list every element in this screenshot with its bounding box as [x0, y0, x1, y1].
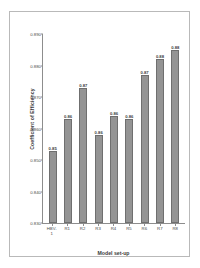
figure-frame: Coefficient of Efficiency 0.8900.8800.87… [9, 11, 190, 257]
x-tick-mark [175, 224, 176, 226]
x-label-cell: R7 [152, 226, 167, 237]
bar[interactable]: 0.88 [171, 50, 179, 223]
x-tick-label: R4 [106, 226, 121, 231]
x-tick-mark [98, 224, 99, 226]
x-tick-mark [67, 224, 68, 226]
x-tick-mark [129, 224, 130, 226]
bar-value-label: 0.86 [64, 114, 72, 119]
bar-cell: 0.86 [106, 34, 121, 223]
plot-area: 0.8900.8800.8700.8600.8500.8400.830 0.85… [42, 34, 185, 224]
x-tick-label: R5 [121, 226, 136, 231]
x-label-cell: HBV-1 [44, 226, 59, 237]
bar[interactable]: 0.86 [110, 116, 118, 223]
bar-value-label: 0.87 [141, 70, 149, 75]
x-label-cell: R3 [90, 226, 105, 237]
x-label-cell: R1 [59, 226, 74, 237]
bar-value-label: 0.86 [125, 114, 133, 119]
bar-cell: 0.88 [152, 34, 167, 223]
x-tick-label: R7 [152, 226, 167, 231]
x-axis-labels: HBV-1R1R2R3R4R5R6R7R8 [42, 226, 185, 237]
chart-figure: Coefficient of Efficiency 0.8900.8800.87… [0, 0, 200, 268]
bar[interactable]: 0.86 [125, 119, 133, 223]
y-tick-label: 0.850 [30, 158, 41, 163]
bar-cell: 0.87 [137, 34, 152, 223]
x-tick-mark [160, 224, 161, 226]
x-tick-mark [52, 224, 53, 226]
x-tick-mark [144, 224, 145, 226]
bar[interactable]: 0.85 [49, 151, 57, 223]
bar-cell: 0.86 [60, 34, 75, 223]
bar-value-label: 0.88 [171, 45, 179, 50]
bar[interactable]: 0.88 [156, 59, 164, 223]
y-tick-label: 0.890 [30, 32, 41, 37]
x-tick-label: R2 [75, 226, 90, 231]
y-tick-label: 0.880 [30, 63, 41, 68]
x-label-cell: R5 [121, 226, 136, 237]
x-tick-label: R8 [168, 226, 183, 231]
bar-cell: 0.85 [45, 34, 60, 223]
bar[interactable]: 0.86 [64, 119, 72, 223]
y-tick-label: 0.830 [30, 221, 41, 226]
bar[interactable]: 0.87 [79, 88, 87, 223]
x-label-cell: R6 [137, 226, 152, 237]
bar[interactable]: 0.86 [95, 135, 103, 223]
bar-series: 0.850.860.870.860.860.860.870.880.88 [43, 34, 185, 223]
bar-cell: 0.86 [122, 34, 137, 223]
bar-value-label: 0.85 [49, 146, 57, 151]
y-tick-label: 0.840 [30, 189, 41, 194]
bar-value-label: 0.86 [95, 130, 103, 135]
x-tick-label: R3 [90, 226, 105, 231]
x-tick-mark [113, 224, 114, 226]
bar-value-label: 0.86 [110, 111, 118, 116]
x-axis-title: Model set-up [42, 250, 185, 256]
bar[interactable]: 0.87 [141, 75, 149, 223]
x-tick-label: R1 [59, 226, 74, 231]
bar-value-label: 0.88 [156, 54, 164, 59]
x-label-cell: R2 [75, 226, 90, 237]
y-tick-label: 0.860 [30, 126, 41, 131]
bar-cell: 0.87 [76, 34, 91, 223]
y-tick-label: 0.870 [30, 95, 41, 100]
x-tick-label: R6 [137, 226, 152, 231]
bar-value-label: 0.87 [79, 83, 87, 88]
x-label-cell: R8 [168, 226, 183, 237]
bar-cell: 0.86 [91, 34, 106, 223]
bar-cell: 0.88 [168, 34, 183, 223]
x-tick-label: HBV-1 [44, 226, 59, 237]
x-label-cell: R4 [106, 226, 121, 237]
x-tick-mark [83, 224, 84, 226]
